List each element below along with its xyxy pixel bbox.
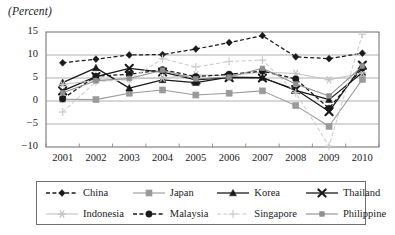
legend-item-korea[interactable]: Korea [208, 186, 297, 200]
y-axis-tick: 15 [12, 25, 38, 36]
legend-symbol-star-icon [44, 207, 80, 221]
legend-label: Singapore [254, 208, 297, 219]
x-axis-tick: 2001 [46, 152, 80, 163]
legend-item-thailand[interactable]: Thailand [297, 186, 386, 200]
chart-page: (Percent) 151050−5−10 200120022003200420… [0, 0, 395, 235]
legend-symbol-diamond-icon [44, 186, 80, 200]
legend-label: Malaysia [170, 208, 209, 219]
y-axis-tick: 5 [12, 71, 38, 82]
legend-symbol-minisquare-icon [304, 207, 340, 221]
y-axis-unit-label: (Percent) [8, 5, 52, 17]
legend-symbol-triangle-icon [215, 186, 251, 200]
legend-label: Japan [170, 187, 194, 198]
x-axis-tick: 2004 [146, 152, 180, 163]
legend-label: Korea [254, 187, 280, 198]
x-axis-tick: 2003 [112, 152, 146, 163]
y-axis-tick: −10 [12, 140, 38, 151]
legend-item-japan[interactable]: Japan [124, 186, 209, 200]
x-axis-tick: 2006 [212, 152, 246, 163]
y-axis-tick: −5 [12, 117, 38, 128]
legend-symbol-square-icon [131, 186, 167, 200]
legend-symbol-circle-icon [131, 207, 167, 221]
line-chart-svg [0, 26, 395, 151]
legend-label: Indonesia [83, 208, 124, 219]
legend-label: Thailand [343, 187, 380, 198]
legend-item-indonesia[interactable]: Indonesia [37, 207, 124, 221]
x-axis-tick: 2010 [345, 152, 379, 163]
plot-area [0, 26, 395, 146]
y-axis-tick: 10 [12, 48, 38, 59]
legend-item-singapore[interactable]: Singapore [208, 207, 297, 221]
legend-label: Philippine [343, 208, 386, 219]
legend-item-china[interactable]: China [37, 186, 124, 200]
legend-symbol-x-icon [304, 186, 340, 200]
chart-legend: ChinaJapanKoreaThailandIndonesiaMalaysia… [36, 181, 366, 225]
legend-item-philippine[interactable]: Philippine [297, 207, 386, 221]
x-axis-tick: 2009 [312, 152, 346, 163]
legend-label: China [83, 187, 108, 198]
x-axis-tick: 2008 [279, 152, 313, 163]
legend-symbol-plus-icon [215, 207, 251, 221]
legend-item-malaysia[interactable]: Malaysia [124, 207, 209, 221]
x-axis-tick: 2005 [179, 152, 213, 163]
x-axis-tick: 2007 [245, 152, 279, 163]
x-axis-tick: 2002 [79, 152, 113, 163]
y-axis-tick: 0 [12, 94, 38, 105]
